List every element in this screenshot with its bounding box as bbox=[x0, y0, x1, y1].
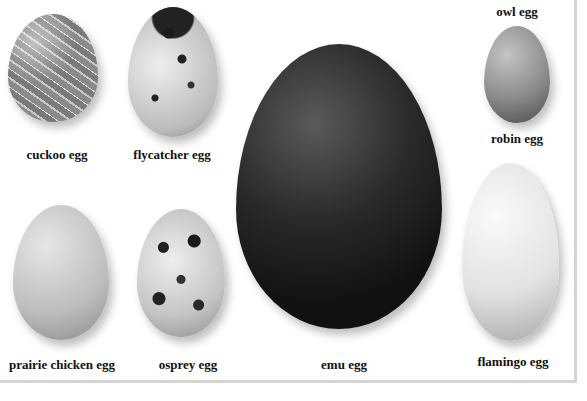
cuckoo-egg-label: cuckoo egg bbox=[26, 147, 87, 163]
flamingo-egg-label: flamingo egg bbox=[477, 354, 548, 370]
prairie-chicken-egg-image bbox=[13, 205, 109, 340]
flycatcher-egg-label: flycatcher egg bbox=[133, 147, 210, 163]
osprey-egg-image bbox=[137, 209, 225, 337]
cuckoo-egg-image bbox=[8, 14, 98, 122]
osprey-egg-label: osprey egg bbox=[159, 357, 218, 373]
robin-egg-image bbox=[484, 26, 550, 123]
owl-egg-label: owl egg bbox=[496, 4, 538, 20]
egg-comparison-panel: cuckoo egg flycatcher egg prairie chicke… bbox=[0, 0, 577, 383]
robin-egg-label: robin egg bbox=[491, 131, 543, 147]
flycatcher-egg-image bbox=[128, 7, 218, 137]
emu-egg-image bbox=[236, 44, 442, 329]
flamingo-egg-image bbox=[462, 163, 559, 341]
prairie-chicken-egg-label: prairie chicken egg bbox=[9, 357, 115, 373]
emu-egg-label: emu egg bbox=[321, 357, 367, 373]
